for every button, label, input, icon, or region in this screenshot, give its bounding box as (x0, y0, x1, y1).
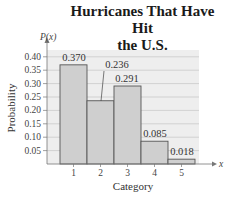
value-label: 0.085 (143, 128, 167, 139)
y-ticks: 0.050.100.150.200.250.300.350.40 (24, 52, 47, 156)
value-label: 0.018 (170, 146, 194, 157)
y-tick-label: 0.35 (24, 65, 41, 75)
y-axis-symbol: P(x) (39, 32, 56, 43)
value-label: 0.291 (115, 73, 139, 84)
x-axis-label: Category (113, 180, 154, 192)
x-tick-label: 2 (98, 168, 103, 178)
chart-canvas: 0.050.100.150.200.250.300.350.40 12345 0… (0, 0, 229, 201)
y-tick-label: 0.20 (24, 105, 41, 115)
y-tick-label: 0.15 (24, 119, 41, 129)
x-ticks: 12345 (71, 164, 184, 178)
x-tick-label: 4 (152, 168, 157, 178)
y-tick-label: 0.05 (24, 146, 41, 156)
bar-category-4 (141, 141, 168, 164)
y-tick-label: 0.25 (24, 92, 41, 102)
y-axis-label: Probability (5, 83, 17, 132)
bar-category-5 (168, 159, 195, 164)
y-tick-label: 0.10 (24, 132, 41, 142)
x-tick-label: 5 (179, 168, 184, 178)
x-tick-label: 1 (71, 168, 76, 178)
x-axis-arrow-icon (212, 162, 217, 167)
bar-category-3 (114, 86, 141, 164)
x-tick-label: 3 (125, 168, 130, 178)
y-tick-label: 0.40 (24, 52, 41, 62)
bar-category-1 (60, 65, 87, 164)
value-label: 0.236 (105, 59, 129, 70)
bar-category-2 (87, 101, 114, 164)
x-axis-symbol: x (218, 159, 224, 169)
value-label: 0.370 (62, 52, 86, 63)
y-tick-label: 0.30 (24, 79, 41, 89)
